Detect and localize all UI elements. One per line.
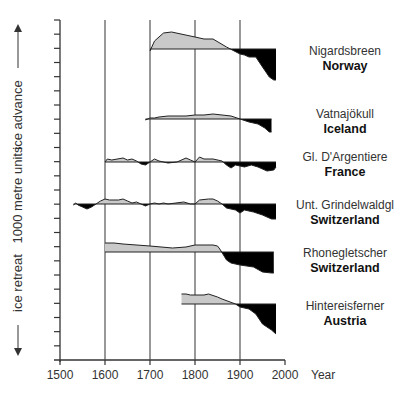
x-axis-title: Year bbox=[311, 368, 335, 382]
glacier-country: France bbox=[285, 165, 405, 180]
glacier-name: Unt. Grindelwaldgl bbox=[285, 198, 405, 213]
ice-advance-label: ice advance bbox=[10, 80, 25, 149]
glacier-label-rhone: Rhonegletscher Switzerland bbox=[285, 246, 405, 276]
glacier-name: Gl. D'Argentiere bbox=[285, 150, 405, 165]
glacier-country: Austria bbox=[285, 314, 405, 329]
y-axis-label: ice advance 1000 metre units ice retreat bbox=[2, 20, 32, 360]
glacier-label-vatnajokull: Vatnajökull Iceland bbox=[285, 107, 405, 137]
glacier-country: Iceland bbox=[285, 122, 405, 137]
x-tick-1600: 1600 bbox=[92, 368, 119, 382]
glacier-name: Vatnajökull bbox=[285, 107, 405, 122]
x-tick-1900: 1900 bbox=[227, 368, 254, 382]
glacier-country: Switzerland bbox=[285, 213, 405, 228]
glacier-label-argentiere: Gl. D'Argentiere France bbox=[285, 150, 405, 180]
units-label: 1000 metre units bbox=[10, 146, 25, 243]
glacier-name: Rhonegletscher bbox=[285, 246, 405, 261]
retreat-arrowhead-icon bbox=[14, 348, 22, 356]
glacier-name: Nigardsbreen bbox=[285, 44, 405, 59]
x-tick-1700: 1700 bbox=[137, 368, 164, 382]
x-tick-2000: 2000 bbox=[272, 368, 299, 382]
glacier-label-grindelwald: Unt. Grindelwaldgl Switzerland bbox=[285, 198, 405, 228]
advance-arrowhead-icon bbox=[14, 24, 22, 32]
glacier-country: Norway bbox=[285, 59, 405, 74]
x-tick-1800: 1800 bbox=[182, 368, 209, 382]
glacier-label-nigardsbreen: Nigardsbreen Norway bbox=[285, 44, 405, 74]
ice-retreat-label: ice retreat bbox=[10, 254, 25, 312]
glacier-label-hintereis: Hintereisferner Austria bbox=[285, 299, 405, 329]
glacier-country: Switzerland bbox=[285, 261, 405, 276]
glacier-name: Hintereisferner bbox=[285, 299, 405, 314]
x-tick-1500: 1500 bbox=[47, 368, 74, 382]
